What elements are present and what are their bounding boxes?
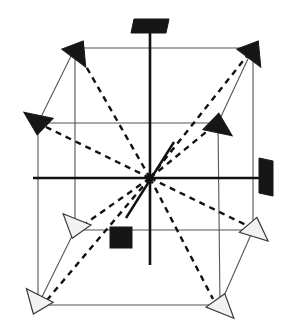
marker-center-square	[110, 227, 132, 248]
marker-axis-top-parallelogram	[131, 19, 169, 33]
marker-axis-right-parallelogram	[259, 158, 273, 196]
figure-root	[0, 0, 288, 336]
cell-center	[147, 175, 152, 180]
cubic-cell-diagram	[0, 0, 288, 336]
